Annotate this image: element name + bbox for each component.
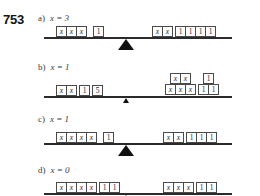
tile-group: x x x x bbox=[56, 132, 96, 143]
tile-group: x x bbox=[152, 26, 172, 37]
part-d-answer: x = 0 bbox=[51, 165, 70, 175]
tile-1: 1 bbox=[206, 182, 217, 193]
worksheet-page: 753 a)x = 3 x x x 1 x bbox=[0, 0, 260, 196]
tile-1: 1 bbox=[206, 132, 217, 143]
tile-group: x x bbox=[56, 85, 76, 96]
tile-group: x x bbox=[163, 132, 183, 143]
part-d-header: d)x = 0 bbox=[38, 165, 70, 175]
tile-stack-x: x x x x x bbox=[165, 73, 195, 95]
part-c-answer: x = 1 bbox=[50, 114, 69, 124]
pan-a-right: x x 1 1 1 1 bbox=[152, 26, 215, 37]
tile-x: x bbox=[86, 132, 97, 143]
tile-group: x x x x bbox=[56, 182, 96, 193]
tile-group: 1 1 bbox=[196, 182, 216, 193]
pan-b-left: x x 1 5 bbox=[56, 85, 102, 96]
tile-group: 1 1 1 1 bbox=[175, 26, 215, 37]
tile-group-bottom: x x x bbox=[165, 84, 195, 95]
tile-group-top: 1 bbox=[203, 73, 213, 84]
part-c-letter: c) bbox=[38, 114, 45, 124]
balance-scale-c: x x x x 1 x x 1 1 1 bbox=[0, 124, 260, 152]
balance-scale-d: x x x x 1 1 x x x 1 bbox=[0, 176, 260, 196]
pan-d-right: x x x 1 1 bbox=[163, 182, 216, 193]
tile-group: x x x bbox=[163, 182, 193, 193]
pan-b-right: x x x x x 1 1 1 bbox=[165, 73, 218, 95]
beam-a bbox=[44, 37, 232, 39]
tile-1: 1 bbox=[203, 73, 214, 84]
part-d-letter: d) bbox=[38, 165, 46, 175]
tile-stack-units: 1 1 1 bbox=[198, 73, 218, 95]
beam-d bbox=[44, 193, 232, 195]
part-a-answer: x = 3 bbox=[50, 13, 69, 23]
pan-c-right: x x 1 1 1 bbox=[163, 132, 216, 143]
pan-c-left: x x x x 1 bbox=[56, 132, 113, 143]
tile-group: 1 1 bbox=[99, 182, 119, 193]
tile-group: x x x bbox=[56, 26, 86, 37]
tile-group: 5 bbox=[92, 85, 102, 96]
tile-1: 1 bbox=[208, 84, 219, 95]
fulcrum-c bbox=[118, 145, 134, 156]
beam-c bbox=[44, 143, 232, 145]
tile-x: x bbox=[76, 26, 87, 37]
balance-scale-b: x x 1 5 x x bbox=[0, 62, 260, 102]
part-a-letter: a) bbox=[38, 13, 45, 23]
tile-group: 1 bbox=[93, 26, 103, 37]
tile-x: x bbox=[66, 85, 77, 96]
balance-scale-a: x x x 1 x x 1 1 1 1 bbox=[0, 24, 260, 52]
part-c-header: c)x = 1 bbox=[38, 114, 69, 124]
pan-d-left: x x x x 1 1 bbox=[56, 182, 119, 193]
tile-1: 1 bbox=[103, 132, 114, 143]
tile-group-bottom: 1 1 bbox=[198, 84, 218, 95]
tile-group: 1 1 1 bbox=[186, 132, 216, 143]
part-a-header: a)x = 3 bbox=[38, 13, 69, 23]
tile-x: x bbox=[162, 26, 173, 37]
fulcrum-a bbox=[118, 39, 134, 50]
tile-x: x bbox=[185, 84, 196, 95]
fulcrum-b bbox=[123, 98, 129, 103]
tile-x: x bbox=[183, 182, 194, 193]
tile-x: x bbox=[173, 132, 184, 143]
tile-group: 1 bbox=[79, 85, 89, 96]
tile-5: 5 bbox=[92, 85, 103, 96]
tile-1: 1 bbox=[79, 85, 90, 96]
tile-1: 1 bbox=[205, 26, 216, 37]
pan-a-left: x x x 1 bbox=[56, 26, 103, 37]
beam-b bbox=[44, 96, 232, 98]
tile-1: 1 bbox=[109, 182, 120, 193]
tile-x: x bbox=[180, 73, 191, 84]
tile-group: 1 bbox=[103, 132, 113, 143]
tile-group-top: x x bbox=[170, 73, 190, 84]
tile-1: 1 bbox=[93, 26, 104, 37]
fulcrum-d bbox=[123, 195, 129, 196]
tile-x: x bbox=[86, 182, 97, 193]
